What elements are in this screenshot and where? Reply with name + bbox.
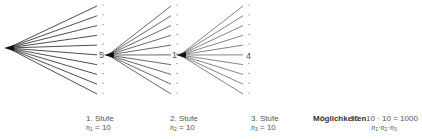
leaf-dot bbox=[176, 73, 177, 74]
stage-1-title: 1. Stufe bbox=[86, 114, 114, 123]
leaf-dot bbox=[248, 34, 249, 35]
branch-line bbox=[108, 16, 171, 55]
leaf-dot bbox=[176, 83, 177, 84]
leaf-dot bbox=[102, 4, 103, 5]
leaf-dot bbox=[102, 83, 103, 84]
leaf-dot bbox=[248, 4, 249, 5]
formula-symbolic: n1·n2·n3 bbox=[350, 123, 418, 134]
leaf-dot bbox=[248, 44, 249, 45]
leaf-dot bbox=[248, 73, 249, 74]
branch-line bbox=[108, 6, 171, 55]
branch-line bbox=[180, 35, 243, 55]
formula-numeric: 10 · 10 · 10 = 1000 bbox=[350, 114, 418, 123]
branch-line bbox=[180, 16, 243, 55]
leaf-dot bbox=[176, 14, 177, 15]
branch-line bbox=[8, 26, 97, 48]
tree-node bbox=[4, 45, 14, 51]
leaf-dot bbox=[102, 24, 103, 25]
branch-line bbox=[108, 26, 171, 55]
branch-line bbox=[108, 35, 171, 55]
leaf-dot bbox=[248, 24, 249, 25]
branch-line bbox=[180, 55, 243, 74]
stage-2-title: 2. Stufe bbox=[170, 114, 198, 123]
leaf-dot bbox=[176, 34, 177, 35]
branch-line bbox=[8, 48, 97, 94]
leaf-dot bbox=[102, 92, 103, 93]
leaf-dot bbox=[248, 83, 249, 84]
branch-line bbox=[8, 48, 97, 65]
stage-1-count: n1 = 10 bbox=[86, 123, 114, 134]
leaf-dot bbox=[176, 24, 177, 25]
leaf-dot bbox=[102, 73, 103, 74]
stage-2-caption: 2. Stufe n2 = 10 bbox=[170, 114, 198, 134]
stage-2-count: n2 = 10 bbox=[170, 123, 198, 134]
branch-line bbox=[108, 55, 171, 94]
branch-line bbox=[180, 55, 243, 65]
leaf-dot bbox=[176, 44, 177, 45]
stage-3-title: 3. Stufe bbox=[251, 114, 279, 123]
branch-line bbox=[180, 55, 243, 94]
node-label-stage-2: 1 bbox=[172, 51, 177, 60]
branch-line bbox=[8, 48, 97, 74]
branch-line bbox=[8, 48, 97, 84]
leaf-dot bbox=[102, 34, 103, 35]
branch-line bbox=[180, 45, 243, 55]
branch-line bbox=[108, 55, 171, 65]
tree-node bbox=[176, 52, 186, 58]
leaf-dot bbox=[248, 63, 249, 64]
leaf-dot bbox=[102, 44, 103, 45]
leaf-dot bbox=[176, 92, 177, 93]
possibilities-formula: 10 · 10 · 10 = 1000 n1·n2·n3 bbox=[350, 114, 418, 134]
branch-line bbox=[180, 26, 243, 55]
branch-line bbox=[8, 16, 97, 48]
branch-line bbox=[108, 55, 171, 74]
branch-line bbox=[108, 55, 171, 84]
branch-line bbox=[180, 55, 243, 84]
node-label-stage-3: 4 bbox=[246, 52, 251, 61]
leaf-dot bbox=[248, 14, 249, 15]
tree-diagram bbox=[0, 0, 422, 100]
leaf-dot bbox=[176, 63, 177, 64]
branch-line bbox=[108, 45, 171, 55]
leaf-dot bbox=[102, 63, 103, 64]
stage-1-caption: 1. Stufe n1 = 10 bbox=[86, 114, 114, 134]
leaf-dot bbox=[176, 4, 177, 5]
stage-3-caption: 3. Stufe n3 = 10 bbox=[251, 114, 279, 134]
stage-3-count: n3 = 10 bbox=[251, 123, 279, 134]
branch-line bbox=[180, 6, 243, 55]
node-label-stage-1: 5 bbox=[99, 51, 104, 60]
branch-line bbox=[8, 45, 97, 48]
tree-node bbox=[104, 52, 114, 58]
leaf-dot bbox=[248, 92, 249, 93]
leaf-dot bbox=[102, 14, 103, 15]
